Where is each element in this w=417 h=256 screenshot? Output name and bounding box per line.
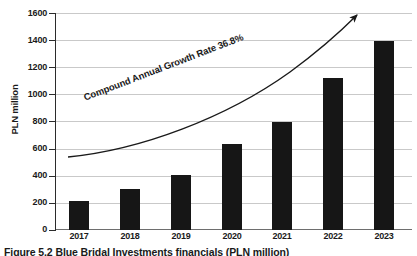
gridline-1200 [56, 67, 412, 68]
gridline-1000 [56, 94, 412, 95]
gridline-800 [56, 121, 412, 122]
x-tick-label-2023: 2023 [361, 232, 407, 241]
y-axis-tick-labels: 1600 1400 1200 1000 800 600 400 200 0 [0, 0, 47, 256]
x-tick-label-2020: 2020 [209, 232, 255, 241]
y-tick-label-0: 0 [3, 225, 47, 234]
bar-2017 [69, 201, 89, 230]
figure-caption: Figure 5.2 Blue Bridal Investments finan… [4, 246, 412, 256]
x-tick-label-2018: 2018 [107, 232, 153, 241]
y-tick-label-200: 200 [3, 198, 47, 207]
y-tick-label-1400: 1400 [3, 36, 47, 45]
x-axis-tick-labels: 2017 2018 2019 2020 2021 2022 2023 [56, 232, 412, 246]
bar-2020 [222, 144, 242, 230]
bar-2018 [120, 189, 140, 230]
bar-2023 [374, 41, 394, 230]
bar-chart-figure: 1600 1400 1200 1000 800 600 400 200 0 PL… [0, 0, 417, 256]
y-axis-title: PLN million [9, 70, 20, 150]
x-tick-label-2022: 2022 [310, 232, 356, 241]
x-tick-label-2019: 2019 [158, 232, 204, 241]
bar-2022 [323, 78, 343, 230]
y-tick-label-400: 400 [3, 171, 47, 180]
x-tick-label-2021: 2021 [259, 232, 305, 241]
gridline-1600 [56, 13, 412, 14]
bar-2019 [171, 175, 191, 230]
y-tick-label-1600: 1600 [3, 9, 47, 18]
bar-2021 [272, 122, 292, 230]
x-tick-label-2017: 2017 [56, 232, 102, 241]
